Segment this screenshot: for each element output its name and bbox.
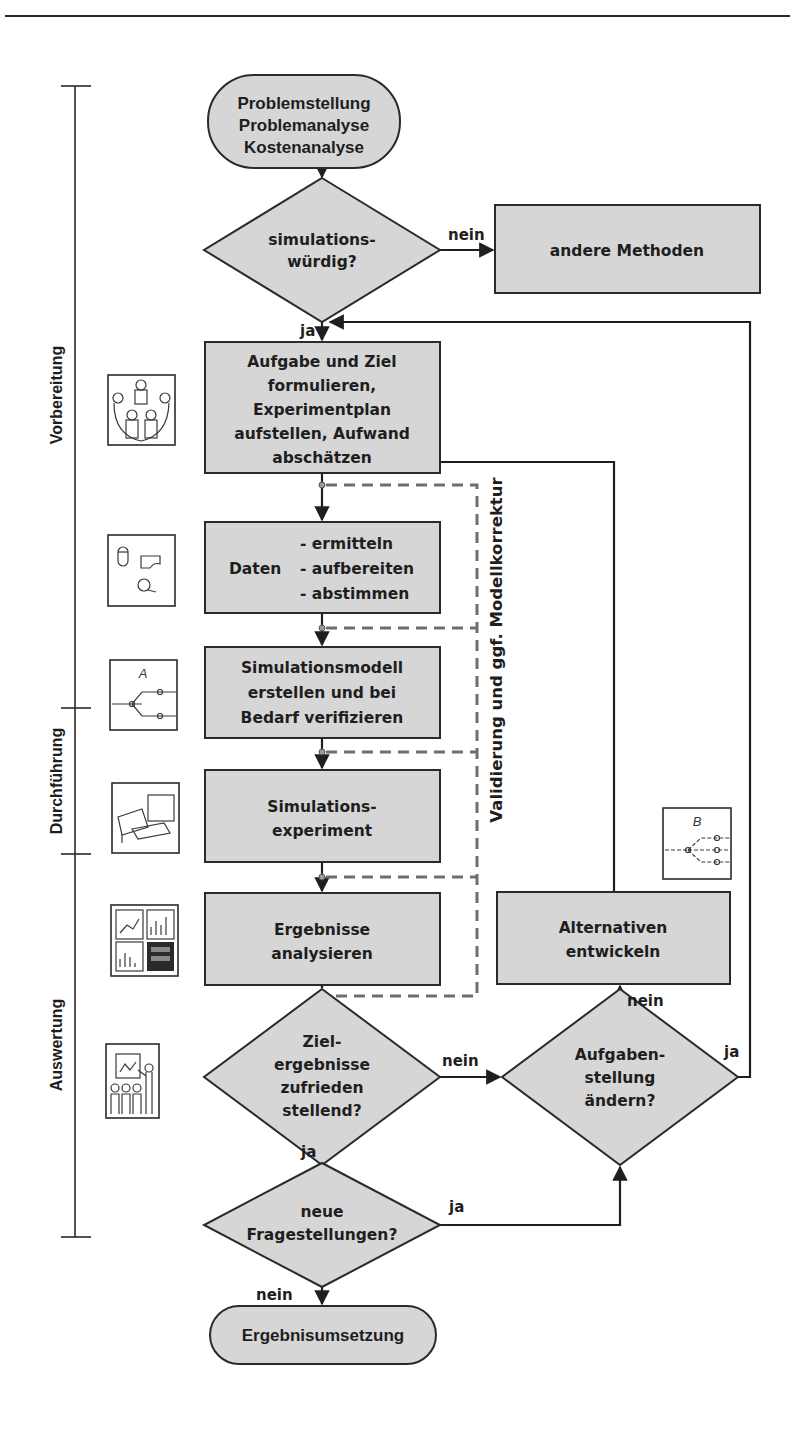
satisfying-line-2: ergebnisse <box>274 1056 370 1074</box>
start-terminal[interactable]: Problemstellung Problemanalyse Kostenana… <box>208 75 400 168</box>
end-label: Ergebnisumsetzung <box>242 1326 404 1345</box>
alternatives-line-2: entwickeln <box>566 943 661 961</box>
define-task-line-3: Experimentplan <box>253 401 391 419</box>
charts-analysis-icon <box>111 905 178 976</box>
experiment-line-1: Simulations- <box>267 798 377 816</box>
model-graph-b-letter: B <box>693 814 702 829</box>
data-box[interactable]: Daten - ermitteln - aufbereiten - abstim… <box>205 522 440 613</box>
edge-label-change-yes: ja <box>723 1043 739 1061</box>
validation-loop-label: Validierung und ggf. Modellkorrektur <box>487 477 506 823</box>
edge-label-worthy-yes: ja <box>299 322 315 340</box>
analyze-results-box[interactable]: Ergebnisse analysieren <box>205 893 440 985</box>
other-methods-label: andere Methoden <box>550 242 704 260</box>
data-left-label: Daten <box>229 560 281 578</box>
other-methods-box[interactable]: andere Methoden <box>495 205 760 293</box>
phase-bracket: Vorbereitung Durchführung Auswertung <box>48 86 91 1237</box>
end-terminal[interactable]: Ergebnisumsetzung <box>210 1306 436 1364</box>
decision-results-satisfying[interactable]: Ziel- ergebnisse zufrieden stellend? <box>204 989 440 1165</box>
satisfying-line-4: stellend? <box>282 1102 361 1120</box>
edge-label-satisfying-yes: ja <box>300 1143 316 1161</box>
model-line-1: Simulationsmodell <box>241 659 403 677</box>
edge-label-new-questions-yes: ja <box>448 1198 464 1216</box>
model-graph-a-icon: A <box>110 660 177 730</box>
change-task-line-3: ändern? <box>585 1092 656 1110</box>
flowchart: Vorbereitung Durchführung Auswertung <box>0 0 791 1437</box>
decision-change-task[interactable]: Aufgaben- stellung ändern? <box>502 989 738 1165</box>
define-task-line-4: aufstellen, Aufwand <box>234 425 410 443</box>
start-line-3: Kostenanalyse <box>244 138 364 157</box>
start-line-1: Problemstellung <box>237 94 370 113</box>
model-graph-a-letter: A <box>138 666 148 681</box>
decision-new-questions[interactable]: neue Fragestellungen? <box>204 1163 440 1287</box>
new-questions-line-2: Fragestellungen? <box>247 1226 398 1244</box>
experiment-line-2: experiment <box>272 822 373 840</box>
define-task-line-2: formulieren, <box>268 377 376 395</box>
edge-label-new-questions-no: nein <box>256 1286 293 1304</box>
data-line-1: - ermitteln <box>300 535 393 553</box>
presentation-icon <box>106 1044 159 1118</box>
satisfying-line-3: zufrieden <box>281 1079 364 1097</box>
alternatives-box[interactable]: Alternativen entwickeln <box>497 892 730 984</box>
computer-workstation-icon <box>112 783 179 853</box>
analyze-line-2: analysieren <box>271 945 373 963</box>
model-graph-b-icon: B <box>663 808 731 879</box>
analyze-line-1: Ergebnisse <box>274 921 370 939</box>
edge-label-worthy-no: nein <box>448 226 485 244</box>
experiment-box[interactable]: Simulations- experiment <box>205 770 440 862</box>
edge-label-satisfying-no: nein <box>442 1052 479 1070</box>
decision-simulation-worthy[interactable]: simulations- würdig? <box>204 178 440 322</box>
meeting-people-icon <box>108 375 175 445</box>
change-task-line-1: Aufgaben- <box>575 1046 665 1064</box>
phase-label-auswertung: Auswertung <box>48 999 65 1091</box>
model-line-2: erstellen und bei <box>248 684 396 702</box>
decision-worthy-line-1: simulations- <box>268 231 376 249</box>
data-line-3: - abstimmen <box>300 585 409 603</box>
phase-label-durchfuehrung: Durchführung <box>48 728 65 835</box>
change-task-line-2: stellung <box>585 1069 656 1087</box>
edge-label-change-no: nein <box>627 992 664 1010</box>
model-line-3: Bedarf verifizieren <box>241 709 404 727</box>
alternatives-line-1: Alternativen <box>559 919 668 937</box>
new-questions-line-1: neue <box>300 1203 343 1221</box>
decision-worthy-line-2: würdig? <box>287 253 357 271</box>
model-box[interactable]: Simulationsmodell erstellen und bei Beda… <box>205 647 440 738</box>
data-objects-icon <box>108 535 175 606</box>
define-task-line-1: Aufgabe und Ziel <box>247 353 396 371</box>
start-line-2: Problemanalyse <box>239 116 369 135</box>
define-task-line-5: abschätzen <box>272 449 371 467</box>
data-line-2: - aufbereiten <box>300 560 414 578</box>
define-task-box[interactable]: Aufgabe und Ziel formulieren, Experiment… <box>205 342 440 473</box>
satisfying-line-1: Ziel- <box>303 1033 342 1051</box>
phase-label-vorbereitung: Vorbereitung <box>48 346 65 444</box>
